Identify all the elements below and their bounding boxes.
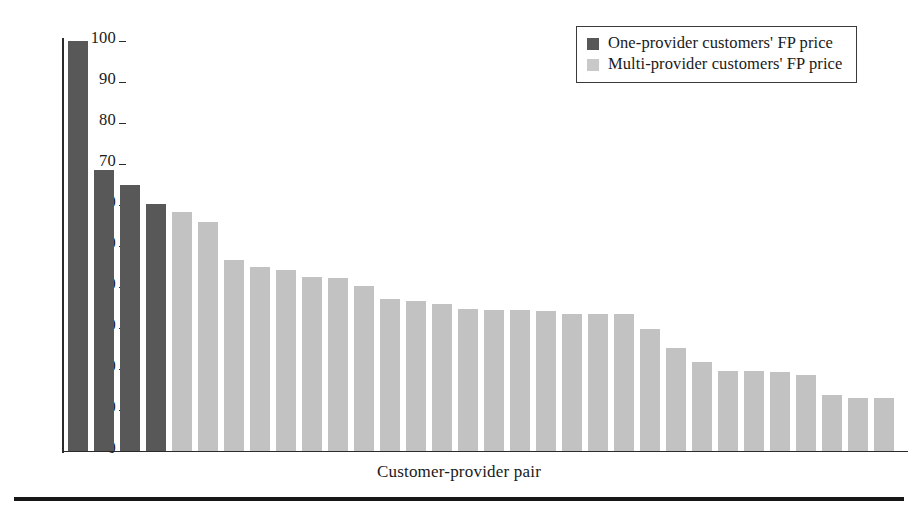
bar-chart-figure: 0102030405060708090100 Customer-provider… (0, 0, 918, 512)
bar-2 (94, 170, 114, 451)
bar-30 (822, 395, 842, 451)
bar-21 (588, 314, 608, 451)
bar-27 (744, 371, 764, 451)
bar-23 (640, 329, 660, 451)
bar-10 (302, 277, 322, 451)
bar-31 (848, 398, 868, 451)
bar-14 (406, 301, 426, 451)
bottom-rule (14, 497, 904, 501)
bar-5 (172, 212, 192, 451)
bar-20 (562, 314, 582, 451)
bar-11 (328, 278, 348, 451)
bar-8 (250, 267, 270, 452)
bar-32 (874, 398, 894, 451)
legend-swatch-one-provider (587, 38, 599, 50)
bar-series-container (63, 41, 908, 451)
bar-22 (614, 314, 634, 451)
legend-label-multi-provider: Multi-provider customers' FP price (608, 56, 842, 73)
bar-25 (692, 362, 712, 451)
bar-19 (536, 311, 556, 451)
bar-13 (380, 299, 400, 451)
chart-legend: One-provider customers' FP price Multi-p… (576, 26, 857, 83)
legend-item-multi-provider[interactable]: Multi-provider customers' FP price (587, 54, 842, 75)
bar-1 (68, 41, 88, 451)
x-axis-title: Customer-provider pair (0, 462, 918, 482)
legend-label-one-provider: One-provider customers' FP price (608, 35, 833, 52)
legend-item-one-provider[interactable]: One-provider customers' FP price (587, 33, 842, 54)
bar-18 (510, 310, 530, 451)
bar-26 (718, 371, 738, 451)
plot-area: 0102030405060708090100 (63, 41, 908, 451)
bar-9 (276, 270, 296, 451)
bar-6 (198, 222, 218, 451)
bar-4 (146, 204, 166, 451)
bar-12 (354, 286, 374, 451)
legend-swatch-multi-provider (587, 59, 599, 71)
bar-16 (458, 309, 478, 451)
bar-29 (796, 375, 816, 451)
bar-7 (224, 260, 244, 451)
bar-17 (484, 310, 504, 451)
bar-28 (770, 372, 790, 451)
bar-24 (666, 348, 686, 451)
bar-15 (432, 304, 452, 451)
bar-3 (120, 185, 140, 452)
